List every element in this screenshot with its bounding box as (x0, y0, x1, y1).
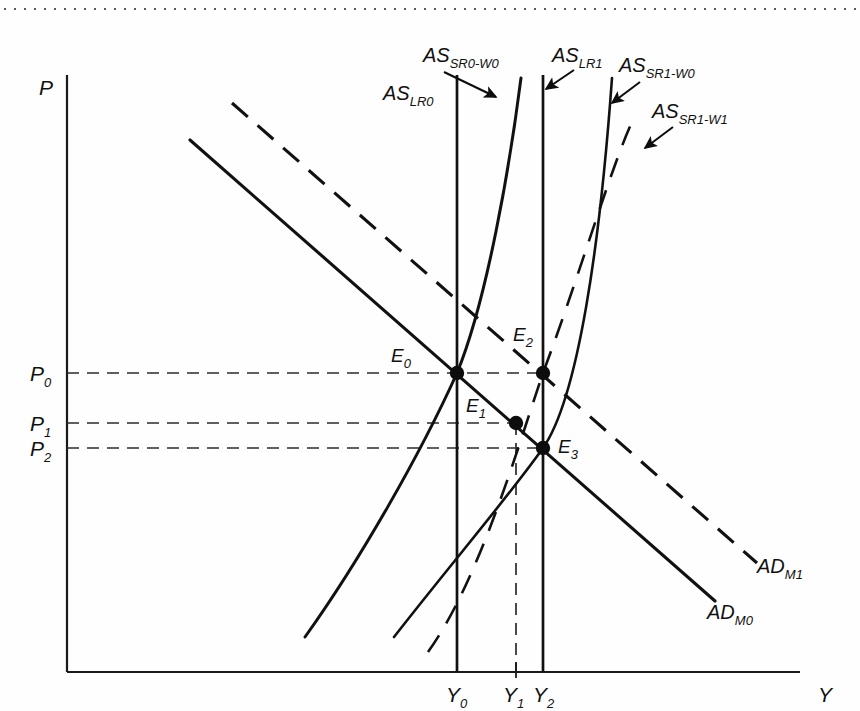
ad-curves (190, 103, 757, 601)
curve-labels: ASLR0 ASSR0-W0 ASLR1 ASSR1-W0 ASSR1-W1 A… (382, 44, 803, 628)
equilibrium-label-e0: E0 (391, 345, 412, 371)
x-axis-title: Y (818, 683, 834, 706)
price-label-p0: P0 (30, 362, 52, 390)
curve-label-ad-m1: ADM1 (756, 555, 803, 582)
curve-ad-m1 (232, 103, 757, 563)
price-label-p2: P2 (30, 437, 52, 465)
curve-label-as-sr0-w0: ASSR0-W0 (422, 44, 500, 71)
figure-canvas: P Y P0 P1 P2 Y0 Y1 Y2 (0, 0, 860, 711)
y-axis-title: P (39, 76, 53, 99)
guide-lines (67, 373, 543, 672)
output-tick-labels: Y0 Y1 Y2 (446, 683, 555, 711)
arrow-to-as-sr1-w1 (645, 127, 673, 148)
as-sr-curves (305, 78, 632, 652)
arrow-to-as-lr1 (546, 70, 574, 89)
output-label-y1: Y1 (503, 683, 524, 711)
equilibrium-labels: E0 E1 E2 E3 (391, 324, 579, 462)
price-tick-labels: P0 P1 P2 (30, 362, 52, 465)
leader-arrows (444, 70, 673, 148)
curve-label-as-sr1-w0: ASSR1-W0 (618, 54, 696, 81)
output-label-y0: Y0 (446, 683, 468, 711)
arrow-to-as-sr1-w0 (612, 82, 640, 103)
curve-label-as-lr0: ASLR0 (382, 82, 434, 109)
curve-label-as-sr1-w1: ASSR1-W1 (651, 100, 728, 127)
equilibrium-label-e2: E2 (513, 324, 534, 350)
equilibrium-label-e3: E3 (558, 436, 579, 462)
price-label-p1: P1 (30, 412, 51, 440)
curve-label-as-lr1: ASLR1 (551, 44, 603, 71)
curve-as-sr1-w0 (394, 78, 612, 637)
marker-e2 (536, 366, 550, 380)
curve-label-ad-m0: ADM0 (706, 601, 754, 628)
marker-e0 (450, 366, 464, 380)
curve-as-sr1-w1 (428, 122, 632, 652)
ad-as-diagram: P Y P0 P1 P2 Y0 Y1 Y2 (0, 0, 860, 711)
marker-e3 (536, 441, 550, 455)
output-label-y2: Y2 (533, 683, 555, 711)
curve-as-sr0-w0 (305, 78, 521, 637)
arrow-to-as-sr0-w0 (444, 72, 496, 97)
marker-e1 (509, 416, 523, 430)
